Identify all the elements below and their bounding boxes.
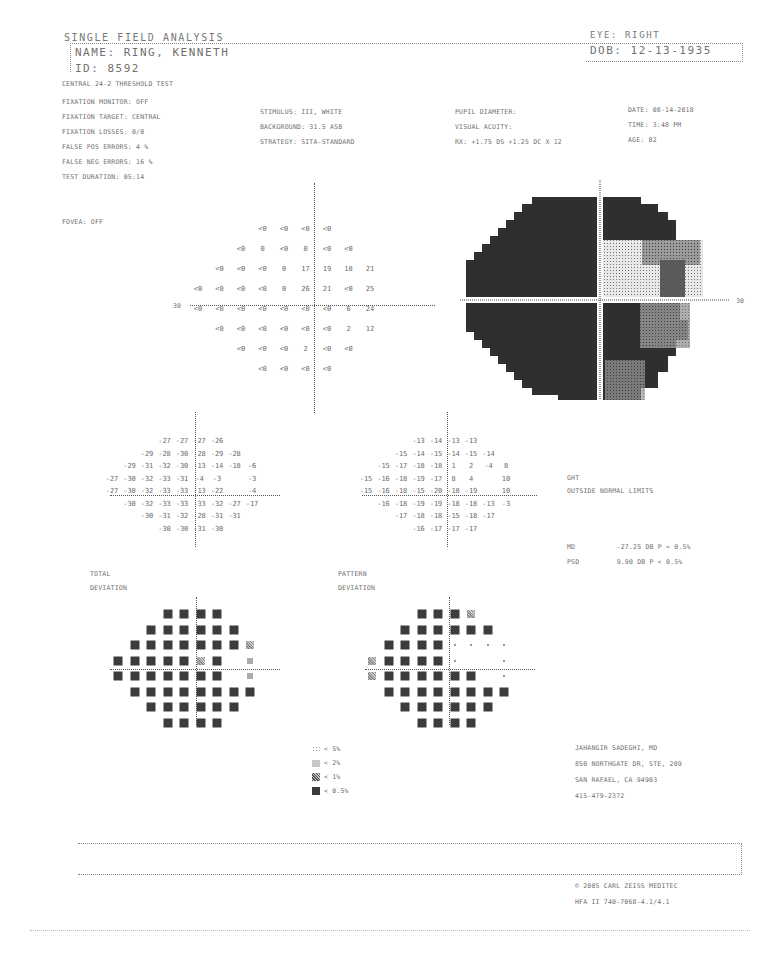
plot-value: -28 <box>228 450 241 458</box>
plot-value: 10 <box>502 487 510 495</box>
probability-symbol <box>483 625 492 634</box>
plot-value: <0 <box>323 305 331 313</box>
params-left: FIXATION MONITOR: OFF FIXATION TARGET: C… <box>62 98 161 188</box>
legend-item: < 2% <box>312 756 349 770</box>
plot-value: -32 <box>176 512 189 520</box>
plot-value: <0 <box>323 325 331 333</box>
probability-symbol <box>147 703 156 712</box>
probability-symbol <box>247 658 253 664</box>
probability-symbol <box>197 657 205 665</box>
param-age: AGE: 82 <box>628 136 694 151</box>
plot-value: -33 <box>176 500 189 508</box>
plot-value: -32 <box>141 500 154 508</box>
plot-value: -19 <box>465 487 478 495</box>
pd-label-1: PATTERN <box>338 570 375 584</box>
td-v-axis <box>195 412 196 547</box>
probability-symbol <box>368 657 376 665</box>
probability-symbol <box>368 672 376 680</box>
probability-symbol <box>467 703 476 712</box>
plot-value: <0 <box>280 225 288 233</box>
plot-value: -30 <box>141 512 154 520</box>
probability-symbol <box>434 672 443 681</box>
param-pupil: PUPIL DIAMETER: <box>455 108 562 123</box>
probability-symbol <box>213 641 222 650</box>
plot-value: -33 <box>158 475 171 483</box>
psd-value: 9.90 DB P < 0.5% <box>617 558 683 566</box>
probability-symbol <box>180 718 189 727</box>
pattern-deviation-label: PATTERN DEVIATION <box>338 570 375 592</box>
param-false-pos: FALSE POS ERRORS: 4 % <box>62 143 161 158</box>
plot-value: -18 <box>447 487 460 495</box>
plot-value: -30 <box>123 500 136 508</box>
test-name: CENTRAL 24-2 THRESHOLD TEST <box>62 80 173 88</box>
plot-value: -18 <box>395 487 408 495</box>
probability-symbol <box>467 672 476 681</box>
plot-value: <0 <box>280 365 288 373</box>
plot-value: <0 <box>258 345 266 353</box>
plot-value: -17 <box>447 525 460 533</box>
probability-symbol <box>130 656 139 665</box>
probability-symbol <box>196 718 205 727</box>
probability-symbol <box>470 644 472 646</box>
param-fovea: FOVEA: OFF <box>62 218 103 226</box>
plot-value: 8 <box>504 462 508 470</box>
plot-value: -33 <box>176 487 189 495</box>
plot-value: <0 <box>215 265 223 273</box>
patient-dob: DOB: 12-13-1935 <box>590 44 712 57</box>
probability-symbol <box>163 718 172 727</box>
device-version: HFA II 740-7068-4.1/4.1 <box>575 898 678 906</box>
plot-value: <0 <box>237 305 245 313</box>
probability-symbol <box>434 656 443 665</box>
plot-value: -4 <box>195 475 203 483</box>
patient-id: ID: 8592 <box>75 62 140 75</box>
param-false-neg: FALSE NEG ERRORS: 16 % <box>62 158 161 173</box>
probability-symbol <box>213 718 222 727</box>
plot-value: -31 <box>176 475 189 483</box>
plot-value: -27 <box>106 487 119 495</box>
probability-symbol <box>467 610 475 618</box>
probability-symbol <box>163 610 172 619</box>
param-acuity: VISUAL ACUITY: <box>455 123 562 138</box>
plot-value: <0 <box>301 225 309 233</box>
plot-value: -22 <box>211 487 224 495</box>
plot-value: -31 <box>158 512 171 520</box>
probability-symbol <box>450 625 459 634</box>
plot-value: -18 <box>447 500 460 508</box>
plot-value: -15 <box>412 487 425 495</box>
probability-symbol <box>434 610 443 619</box>
plot-value: -30 <box>158 525 171 533</box>
global-indices: MD -27.25 DB P < 0.5% PSD 9.90 DB P < 0.… <box>567 534 691 568</box>
probability-symbol <box>246 641 254 649</box>
probability-symbol <box>196 687 205 696</box>
plot-value: -19 <box>412 500 425 508</box>
plot-value: -27 <box>106 475 119 483</box>
plot-value: -27 <box>158 437 171 445</box>
doctor-info: JAHANGIR SADEGHI, MD 850 NORTHGATE DR, S… <box>575 744 682 800</box>
legend-item: < 1% <box>312 770 349 784</box>
plot-value: -17 <box>482 512 495 520</box>
threshold-h-axis <box>190 305 435 306</box>
probability-symbol <box>500 687 509 696</box>
plot-value: -19 <box>412 475 425 483</box>
probability-symbol <box>450 672 459 681</box>
plot-value: -28 <box>158 450 171 458</box>
plot-value: <0 <box>280 345 288 353</box>
probability-symbol <box>401 656 410 665</box>
probability-symbol <box>450 703 459 712</box>
plot-value: -18 <box>412 462 425 470</box>
pd-v-axis <box>447 412 448 547</box>
tpm-h-axis <box>110 669 280 670</box>
plot-value: -13 <box>447 437 460 445</box>
probability-symbol <box>163 641 172 650</box>
probability-symbol <box>417 703 426 712</box>
plot-value: 25 <box>366 285 374 293</box>
legend-item: < 0.5% <box>312 784 349 798</box>
plot-value: -33 <box>158 487 171 495</box>
doctor-city: SAN RAFAEL, CA 94903 <box>575 776 682 792</box>
plot-value: 21 <box>366 265 374 273</box>
probability-symbol <box>114 672 123 681</box>
probability-symbol <box>503 675 505 677</box>
ppm-v-axis <box>449 597 450 725</box>
probability-symbol <box>467 718 476 727</box>
probability-symbol <box>196 703 205 712</box>
